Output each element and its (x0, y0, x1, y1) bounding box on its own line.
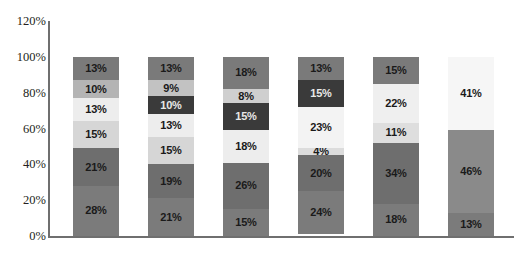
x-axis-line (48, 236, 514, 238)
segment-value-label: 13% (160, 120, 181, 131)
segment-value-label: 23% (310, 122, 331, 133)
segment-value-label: 10% (85, 84, 106, 95)
bar-3-segment-6[interactable]: 18% (223, 57, 269, 89)
bar-1-segment-2[interactable]: 21% (73, 148, 119, 186)
bar-1-segment-5[interactable]: 10% (73, 80, 119, 98)
segment-value-label: 18% (235, 141, 256, 152)
bar-2[interactable]: 13%9%10%13%15%19%21% (148, 57, 194, 236)
bar-5-segment-5[interactable]: 15% (373, 57, 419, 84)
segment-value-label: 15% (310, 88, 331, 99)
segment-value-label: 15% (160, 145, 181, 156)
bar-5-segment-2[interactable]: 34% (373, 143, 419, 204)
bar-4-segment-4[interactable]: 23% (298, 107, 344, 148)
bar-4-segment-3[interactable]: 4% (298, 148, 344, 155)
segment-value-label: 4% (313, 148, 329, 155)
segment-value-label: 41% (460, 88, 481, 99)
bar-3-segment-4[interactable]: 15% (223, 103, 269, 130)
segment-value-label: 24% (310, 207, 331, 218)
bar-2-segment-1[interactable]: 21% (148, 198, 194, 236)
stacked-bar-chart: 0%20%40%60%80%100%120% 13%10%13%15%21%28… (0, 0, 522, 263)
bar-2-segment-4[interactable]: 13% (148, 114, 194, 137)
bar-1[interactable]: 13%10%13%15%21%28% (73, 57, 119, 236)
segment-value-label: 21% (160, 212, 181, 223)
segment-value-label: 28% (85, 205, 106, 216)
bar-4-segment-6[interactable]: 13% (298, 57, 344, 80)
bar-4-segment-2[interactable]: 20% (298, 155, 344, 191)
bar-3-segment-1[interactable]: 15% (223, 209, 269, 236)
y-axis-tick-60pct: 60% (2, 122, 46, 135)
segment-value-label: 10% (160, 100, 181, 111)
bar-5-segment-3[interactable]: 11% (373, 123, 419, 143)
bar-5-segment-4[interactable]: 22% (373, 84, 419, 123)
segment-value-label: 9% (163, 83, 179, 94)
bar-6-segment-3[interactable]: 41% (448, 57, 494, 130)
segment-value-label: 46% (460, 166, 481, 177)
bar-6[interactable]: 41%46%13% (448, 57, 494, 236)
y-axis-tick-120pct: 120% (2, 15, 46, 28)
segment-value-label: 15% (235, 217, 256, 228)
segment-value-label: 19% (160, 176, 181, 187)
segment-value-label: 15% (235, 111, 256, 122)
bar-3-segment-5[interactable]: 8% (223, 89, 269, 103)
y-axis-tick-20pct: 20% (2, 194, 46, 207)
y-axis-tick-80pct: 80% (2, 86, 46, 99)
segment-value-label: 13% (160, 63, 181, 74)
segment-value-label: 22% (385, 98, 406, 109)
segment-value-label: 13% (310, 63, 331, 74)
bar-4[interactable]: 13%15%23%4%20%24% (298, 57, 344, 236)
bar-1-segment-6[interactable]: 13% (73, 57, 119, 80)
segment-value-label: 21% (85, 162, 106, 173)
y-axis-tick-labels: 0%20%40%60%80%100%120% (0, 0, 46, 263)
bar-5[interactable]: 15%22%11%34%18% (373, 57, 419, 236)
bar-1-segment-3[interactable]: 15% (73, 121, 119, 148)
segment-value-label: 20% (310, 168, 331, 179)
segment-value-label: 13% (85, 63, 106, 74)
bar-1-segment-1[interactable]: 28% (73, 186, 119, 236)
bar-3-segment-2[interactable]: 26% (223, 163, 269, 210)
bar-4-segment-5[interactable]: 15% (298, 80, 344, 107)
segment-value-label: 13% (460, 219, 481, 230)
bar-4-segment-1[interactable]: 24% (298, 191, 344, 234)
bar-2-segment-6[interactable]: 9% (148, 80, 194, 96)
segment-value-label: 15% (85, 129, 106, 140)
bar-3[interactable]: 18%8%15%18%26%15% (223, 57, 269, 236)
bar-2-segment-3[interactable]: 15% (148, 137, 194, 164)
y-axis-tick-0pct: 0% (2, 230, 46, 243)
bar-2-segment-5[interactable]: 10% (148, 96, 194, 114)
segment-value-label: 13% (85, 104, 106, 115)
bar-2-segment-7[interactable]: 13% (148, 57, 194, 80)
bar-5-segment-1[interactable]: 18% (373, 204, 419, 236)
segment-value-label: 15% (385, 65, 406, 76)
y-axis-tick-100pct: 100% (2, 51, 46, 64)
bar-1-segment-4[interactable]: 13% (73, 98, 119, 121)
segment-value-label: 11% (386, 127, 407, 138)
y-axis-tick-40pct: 40% (2, 158, 46, 171)
segment-value-label: 8% (238, 91, 254, 102)
segment-value-label: 26% (235, 180, 256, 191)
bar-3-segment-3[interactable]: 18% (223, 130, 269, 162)
plot-area: 13%10%13%15%21%28%13%9%10%13%15%19%21%18… (50, 21, 514, 236)
segment-value-label: 34% (385, 168, 406, 179)
segment-value-label: 18% (385, 214, 406, 225)
bar-2-segment-2[interactable]: 19% (148, 164, 194, 198)
bar-6-segment-1[interactable]: 13% (448, 213, 494, 236)
bar-6-segment-2[interactable]: 46% (448, 130, 494, 212)
segment-value-label: 18% (235, 67, 256, 78)
